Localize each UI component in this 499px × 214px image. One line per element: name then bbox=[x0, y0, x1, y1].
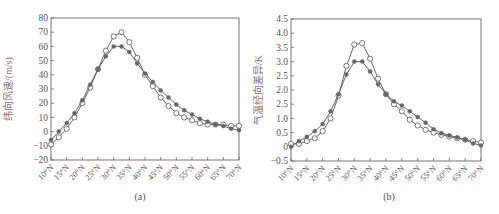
filled-circle-marker bbox=[221, 124, 225, 128]
x-axis-b: 10°N15°N20°N25°N30°N35°N40°N45°N50°N55°N… bbox=[276, 158, 486, 183]
x-tick-label: 45°N bbox=[386, 163, 406, 183]
series-a bbox=[48, 30, 241, 147]
y-tick-label: 50 bbox=[39, 56, 49, 66]
filled-circle-marker bbox=[400, 104, 404, 108]
x-tick-label: 20°N bbox=[67, 162, 87, 182]
x-tick-label: 50°N bbox=[402, 163, 422, 183]
filled-circle-marker bbox=[313, 129, 317, 133]
y-tick-label: 10 bbox=[39, 113, 49, 123]
x-tick-label: 60°N bbox=[192, 162, 212, 182]
filled-circle-marker bbox=[112, 44, 116, 48]
x-axis-a: 10°N15°N20°N25°N30°N35°N40°N45°N50°N55°N… bbox=[36, 157, 244, 182]
y-axis-label-b: 气温经向差异/K bbox=[252, 54, 264, 125]
x-tick-label: 35°N bbox=[114, 162, 134, 182]
y-tick-label: 3.0 bbox=[276, 57, 288, 67]
y-tick-label: −10 bbox=[33, 141, 48, 151]
open-circle-marker bbox=[312, 136, 317, 141]
figure: 80706050403020100−10−20 10°N15°N20°N25°N… bbox=[0, 0, 499, 214]
open-circle-marker bbox=[64, 126, 69, 131]
filled-circle-marker bbox=[88, 83, 92, 87]
filled-circle-marker bbox=[237, 128, 241, 132]
open-circle-marker bbox=[182, 115, 187, 120]
y-tick-label: 40 bbox=[39, 70, 49, 80]
chart-panel-a: 80706050403020100−10−20 10°N15°N20°N25°N… bbox=[2, 13, 243, 203]
y-tick-label: 4.0 bbox=[276, 28, 288, 38]
y-tick-label: 0 bbox=[283, 142, 288, 152]
x-tick-label: 70°N bbox=[466, 163, 486, 183]
open-circle-marker bbox=[423, 127, 428, 132]
x-tick-label: 70°N bbox=[224, 162, 244, 182]
series-line bbox=[51, 32, 239, 144]
filled-circle-marker bbox=[360, 60, 364, 64]
filled-circle-marker bbox=[416, 115, 420, 119]
open-circle-marker bbox=[320, 129, 325, 134]
filled-circle-marker bbox=[198, 117, 202, 121]
x-tick-label: 65°N bbox=[208, 162, 228, 182]
open-circle-marker bbox=[135, 55, 140, 60]
filled-circle-marker bbox=[289, 145, 293, 149]
x-tick-label: 10°N bbox=[276, 163, 296, 183]
open-circle-marker bbox=[103, 48, 108, 53]
x-tick-label: 60°N bbox=[434, 163, 454, 183]
filled-circle-marker bbox=[214, 123, 218, 127]
y-axis-label-a: 纬向风速/(m/s) bbox=[2, 57, 15, 121]
filled-circle-marker bbox=[455, 135, 459, 139]
chart-panel-b: 4.54.03.53.02.52.02.51.00.50−0.5 10°N15°… bbox=[252, 14, 485, 203]
filled-circle-marker bbox=[174, 103, 178, 107]
open-circle-marker bbox=[158, 95, 163, 100]
y-tick-label: 4.5 bbox=[276, 14, 288, 24]
open-circle-marker bbox=[189, 118, 194, 123]
x-tick-label: 25°N bbox=[323, 163, 343, 183]
plot-frame-a bbox=[51, 18, 239, 160]
x-tick-label: 25°N bbox=[83, 162, 103, 182]
x-tick-label: 10°N bbox=[36, 162, 56, 182]
open-circle-marker bbox=[407, 117, 412, 122]
filled-circle-marker bbox=[297, 139, 301, 143]
filled-circle-marker bbox=[392, 99, 396, 103]
caption-a: (a) bbox=[134, 191, 145, 203]
filled-circle-marker bbox=[65, 121, 69, 125]
filled-circle-marker bbox=[135, 61, 139, 65]
x-tick-label: 55°N bbox=[418, 163, 438, 183]
filled-circle-marker bbox=[206, 120, 210, 124]
open-circle-marker bbox=[127, 40, 132, 45]
open-circle-marker bbox=[352, 42, 357, 47]
series-b bbox=[288, 41, 483, 149]
x-tick-label: 30°N bbox=[98, 162, 118, 182]
filled-circle-marker bbox=[190, 113, 194, 117]
filled-circle-marker bbox=[96, 67, 100, 71]
filled-circle-marker bbox=[447, 133, 451, 137]
open-circle-marker bbox=[166, 103, 171, 108]
filled-circle-marker bbox=[471, 141, 475, 145]
filled-circle-marker bbox=[57, 130, 61, 134]
x-tick-label: 45°N bbox=[145, 162, 165, 182]
filled-circle-marker bbox=[463, 138, 467, 142]
open-circle-marker bbox=[399, 109, 404, 114]
open-circle-marker bbox=[197, 120, 202, 125]
x-tick-label: 55°N bbox=[177, 162, 197, 182]
filled-circle-marker bbox=[159, 88, 163, 92]
filled-circle-marker bbox=[352, 60, 356, 64]
y-tick-label: 2.5 bbox=[276, 99, 288, 109]
open-circle-marker bbox=[48, 142, 53, 147]
filled-circle-marker bbox=[305, 135, 309, 139]
open-circle-marker bbox=[304, 139, 309, 144]
y-tick-label: 0.5 bbox=[276, 128, 288, 138]
filled-circle-marker bbox=[376, 82, 380, 86]
filled-circle-marker bbox=[104, 54, 108, 58]
open-circle-marker bbox=[344, 63, 349, 68]
x-tick-label: 30°N bbox=[339, 163, 359, 183]
y-tick-label: 1.0 bbox=[276, 114, 288, 124]
filled-circle-marker bbox=[424, 121, 428, 125]
x-tick-label: 20°N bbox=[307, 163, 327, 183]
y-tick-label: 3.5 bbox=[276, 43, 288, 53]
x-tick-label: 50°N bbox=[161, 162, 181, 182]
open-circle-marker bbox=[119, 30, 124, 35]
filled-circle-marker bbox=[80, 98, 84, 102]
filled-circle-marker bbox=[337, 92, 341, 96]
y-tick-label: 70 bbox=[39, 27, 49, 37]
filled-circle-marker bbox=[344, 72, 348, 76]
x-tick-label: 40°N bbox=[130, 162, 150, 182]
filled-circle-marker bbox=[384, 92, 388, 96]
y-tick-label: 2.0 bbox=[276, 85, 288, 95]
